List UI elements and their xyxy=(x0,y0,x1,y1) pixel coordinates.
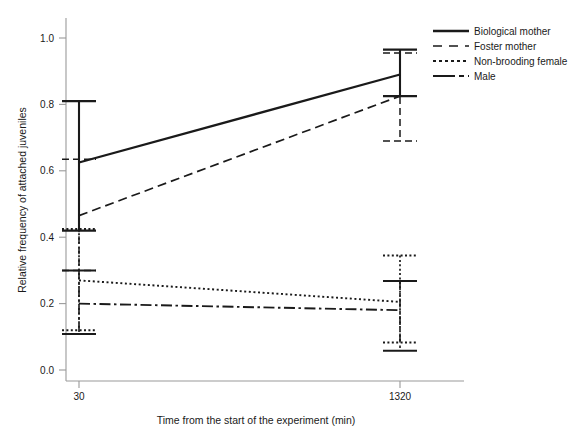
x-axis-ticks xyxy=(79,381,400,388)
x-tick-label-0: 30 xyxy=(73,391,85,402)
legend-label-male: Male xyxy=(474,71,496,82)
legend-label-non-brooding-female: Non-brooding female xyxy=(474,56,568,67)
error-bar-non-brooding-female-left xyxy=(62,229,96,330)
series-line-foster-mother xyxy=(79,96,400,216)
x-tick-labels: 30 1320 xyxy=(73,391,411,402)
y-tick-label-1: 0.2 xyxy=(40,298,54,309)
y-axis-ticks xyxy=(59,38,66,370)
chart-figure: 0.0 0.2 0.4 0.6 0.8 1.0 30 1320 Time fro… xyxy=(0,0,570,439)
y-tick-label-5: 1.0 xyxy=(40,33,54,44)
error-bar-male-left xyxy=(62,270,96,334)
x-tick-label-1: 1320 xyxy=(389,391,412,402)
axes-frame xyxy=(66,18,464,381)
y-axis-title: Relative frequency of attached juveniles xyxy=(16,107,28,293)
y-tick-label-4: 0.8 xyxy=(40,99,54,110)
chart-legend: Biological mother Foster mother Non-broo… xyxy=(433,26,568,82)
y-tick-labels: 0.0 0.2 0.4 0.6 0.8 1.0 xyxy=(40,33,54,376)
legend-label-foster-mother: Foster mother xyxy=(474,41,537,52)
y-tick-label-3: 0.6 xyxy=(40,165,54,176)
series-line-male xyxy=(79,304,400,311)
legend-label-biological-mother: Biological mother xyxy=(474,26,551,37)
series-line-biological-mother xyxy=(79,75,400,163)
x-axis-title: Time from the start of the experiment (m… xyxy=(157,414,356,426)
y-tick-label-0: 0.0 xyxy=(40,365,54,376)
chart-svg: 0.0 0.2 0.4 0.6 0.8 1.0 30 1320 Time fro… xyxy=(0,0,570,439)
series-line-non-brooding-female xyxy=(79,280,400,302)
y-tick-label-2: 0.4 xyxy=(40,232,54,243)
